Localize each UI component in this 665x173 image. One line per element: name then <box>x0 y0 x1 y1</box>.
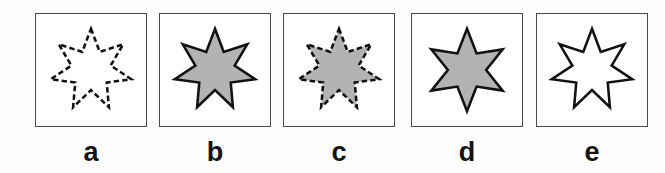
option-label-b: b <box>159 136 271 168</box>
seven-pointed-star-dashed-unfilled <box>51 29 131 107</box>
option-panel-b[interactable] <box>159 13 271 127</box>
six-pointed-star-solid-gray <box>431 29 502 112</box>
seven-pointed-star-dashed-gray <box>299 29 379 107</box>
option-panel-a[interactable] <box>35 13 147 127</box>
seven-pointed-star-solid-unfilled <box>552 29 632 107</box>
option-panel-d[interactable] <box>411 13 523 127</box>
star-shape-c <box>284 14 394 126</box>
option-label-d: d <box>411 136 523 168</box>
option-panel-e[interactable] <box>536 13 648 127</box>
star-shape-e <box>537 14 647 126</box>
option-label-c: c <box>283 136 395 168</box>
answer-choice-figure: a b c d e <box>0 0 665 173</box>
option-panel-c[interactable] <box>283 13 395 127</box>
star-shape-a <box>36 14 146 126</box>
option-label-e: e <box>536 136 648 168</box>
seven-pointed-star-solid-gray <box>175 29 255 107</box>
star-shape-b <box>160 14 270 126</box>
option-label-a: a <box>35 136 147 168</box>
star-shape-d <box>412 14 522 126</box>
